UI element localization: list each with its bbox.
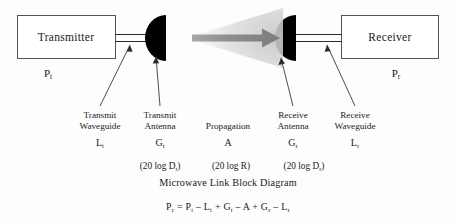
- eq-equals: =: [177, 201, 183, 212]
- label-transmit-antenna-line2: Antenna: [144, 121, 177, 132]
- db-receive-antenna: (20 log Dr): [284, 162, 325, 172]
- label-receive-antenna-line1: Receive: [277, 110, 308, 121]
- symbol-transmit-waveguide-sub: t: [102, 142, 104, 149]
- label-receive-antenna: Receive Antenna: [277, 110, 308, 132]
- eq-term5-sub: r: [268, 206, 270, 213]
- diagram-caption: Microwave Link Block Diagram: [159, 178, 296, 189]
- transmit-antenna-dish: [145, 15, 166, 61]
- symbol-transmit-waveguide: Lt: [96, 138, 104, 149]
- db-propagation-text: (20 log R: [212, 161, 247, 171]
- db-transmit-antenna: (20 log Dt): [140, 162, 181, 172]
- receiver-label: Receiver: [368, 31, 411, 43]
- symbol-transmit-antenna: Gt: [155, 138, 164, 149]
- eq-term4-symbol: A: [243, 201, 250, 212]
- symbol-receive-antenna: Gr: [288, 138, 298, 149]
- eq-operator-1: –: [196, 201, 201, 212]
- symbol-receive-waveguide-sub: r: [357, 142, 359, 149]
- label-propagation-line1: Propagation: [206, 121, 250, 132]
- eq-term3-symbol: G: [223, 201, 230, 212]
- db-receive-antenna-end: ): [321, 161, 324, 171]
- label-transmit-waveguide: Transmit Waveguide: [79, 110, 120, 132]
- db-propagation-end: ): [247, 161, 250, 171]
- label-receive-antenna-line2: Antenna: [277, 121, 308, 132]
- symbol-receive-waveguide: Lr: [351, 138, 359, 149]
- leader-transmit-waveguide-arrowhead: [127, 45, 133, 52]
- eq-term1-sub: t: [191, 206, 193, 213]
- eq-operator-4: +: [252, 201, 258, 212]
- db-receive-antenna-text: (20 log D: [284, 161, 320, 171]
- label-transmit-waveguide-line2: Waveguide: [79, 121, 120, 132]
- label-transmit-antenna-line1: Transmit: [144, 110, 177, 121]
- receive-power-subscript: r: [398, 72, 401, 81]
- transmit-power-label: Pt: [44, 68, 52, 81]
- db-transmit-antenna-text: (20 log D: [140, 161, 176, 171]
- eq-term3-sub: t: [231, 206, 233, 213]
- eq-term6-sub: r: [287, 206, 289, 213]
- transmit-power-subscript: t: [50, 72, 52, 81]
- transmitter-label: Transmitter: [38, 31, 95, 43]
- label-transmit-antenna: Transmit Antenna: [144, 110, 177, 132]
- symbol-receive-antenna-sub: r: [295, 142, 297, 149]
- db-propagation: (20 log R): [212, 162, 250, 172]
- receive-power-label: Pr: [392, 68, 401, 81]
- eq-operator-5: –: [273, 201, 278, 212]
- label-transmit-waveguide-line1: Transmit: [79, 110, 120, 121]
- label-propagation: Propagation: [206, 121, 250, 132]
- link-budget-equation: Pr = Pt – Lt + Gt – A + Gr – Lr: [166, 202, 290, 213]
- eq-term5-symbol: G: [261, 201, 268, 212]
- symbol-propagation: A: [224, 138, 231, 149]
- eq-lhs-sub: r: [172, 206, 174, 213]
- leader-receive-antenna: [281, 58, 293, 106]
- label-receive-waveguide: Receive Waveguide: [334, 110, 375, 132]
- symbol-propagation-base: A: [224, 137, 231, 148]
- leader-transmit-antenna: [156, 57, 160, 106]
- label-receive-waveguide-line1: Receive: [334, 110, 375, 121]
- label-receive-waveguide-line2: Waveguide: [334, 121, 375, 132]
- eq-term2-sub: t: [210, 206, 212, 213]
- symbol-transmit-antenna-sub: t: [163, 142, 165, 149]
- microwave-link-block-diagram: Transmitter Receiver Pt Pr Transmit Wave…: [0, 0, 456, 222]
- db-transmit-antenna-end: ): [177, 161, 180, 171]
- eq-operator-3: –: [236, 201, 241, 212]
- eq-operator-2: +: [215, 201, 221, 212]
